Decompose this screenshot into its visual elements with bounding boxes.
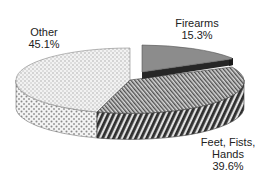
label-feet-name-1: Feet, Fists, xyxy=(198,136,258,148)
label-firearms-value: 15.3% xyxy=(172,29,222,41)
label-other-value: 45.1% xyxy=(22,38,66,50)
label-feet-value: 39.6% xyxy=(198,160,258,172)
label-feet-name-2: Hands xyxy=(198,148,258,160)
label-firearms-name: Firearms xyxy=(172,17,222,29)
label-other-name: Other xyxy=(22,26,66,38)
label-feet-fists-hands: Feet, Fists, Hands 39.6% xyxy=(198,136,258,172)
label-other: Other 45.1% xyxy=(22,26,66,50)
label-firearms: Firearms 15.3% xyxy=(172,17,222,41)
